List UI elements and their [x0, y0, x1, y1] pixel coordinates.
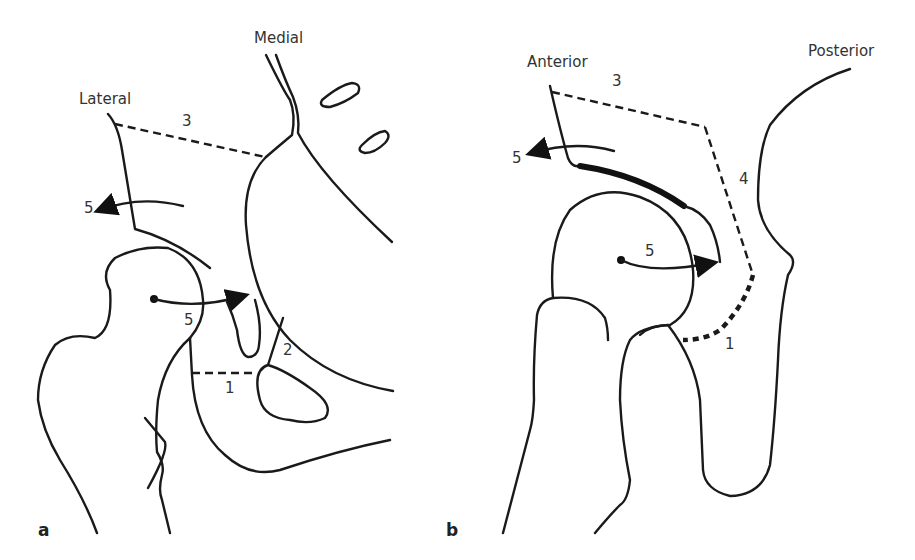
number-1-a: 1 — [225, 379, 235, 397]
panel-label-b: b — [446, 520, 458, 540]
arrow-5-upper — [100, 201, 183, 210]
acetabulum-curve — [246, 157, 393, 391]
diagram-canvas — [0, 0, 915, 560]
label-posterior: Posterior — [808, 42, 874, 60]
panel-a-drawing — [38, 55, 393, 533]
number-2-a: 2 — [283, 341, 293, 359]
medial-line-inner — [276, 55, 392, 242]
number-1-b: 1 — [725, 335, 735, 353]
number-5-lower-b: 5 — [645, 242, 655, 260]
femur-shaft-left — [503, 298, 608, 533]
label-lateral: Lateral — [79, 90, 131, 108]
number-4-b: 4 — [739, 170, 749, 188]
obturator-loop — [227, 300, 260, 357]
label-anterior: Anterior — [527, 53, 588, 71]
number-3-b: 3 — [612, 72, 622, 90]
panel-label-a: a — [38, 520, 49, 540]
arrow-5-upper-b — [532, 146, 614, 153]
panel-b-drawing — [503, 69, 850, 533]
arrow-5-lower-b — [621, 260, 712, 268]
number-5-upper-b: 5 — [512, 149, 522, 167]
line-2 — [268, 318, 283, 365]
dashed-line-4 — [705, 127, 753, 275]
medial-line-outer — [266, 55, 294, 157]
number-3-a: 3 — [182, 112, 192, 130]
number-5-lower-a: 5 — [184, 311, 194, 329]
foramen-oval-2 — [360, 131, 389, 153]
ischial-blob — [257, 365, 328, 422]
lateral-rim-line — [108, 114, 210, 268]
dashed-line-3b — [552, 92, 705, 127]
posterior-outline — [668, 69, 850, 496]
label-medial: Medial — [254, 29, 303, 47]
foramen-oval-1 — [321, 83, 359, 107]
femur-medial-outline — [156, 338, 190, 533]
anterior-rim-line — [550, 86, 580, 166]
femoral-head-outline — [38, 247, 203, 533]
labrum-thick-line — [580, 166, 684, 206]
arrow-5-lower — [154, 296, 243, 304]
femur-shaft-right — [595, 325, 668, 533]
number-5-upper-a: 5 — [84, 199, 94, 217]
